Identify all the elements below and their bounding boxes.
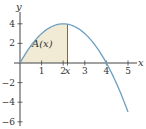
- x-tick-label: 1: [39, 66, 45, 76]
- x-tick-label: 5: [125, 66, 131, 76]
- y-axis-label: y: [15, 1, 22, 12]
- x-axis-label: x: [138, 57, 144, 68]
- y-tick-label: 4: [9, 19, 15, 29]
- y-tick-label: −4: [2, 97, 16, 107]
- area-under-curve-chart: 12x345 42−2−4−6 x y A(x): [0, 0, 146, 129]
- y-tick-label: −6: [2, 117, 16, 127]
- x-tick-label: 3: [82, 66, 88, 76]
- y-tick-label: 2: [9, 38, 15, 48]
- x-tick-label: x: [65, 65, 71, 76]
- y-tick-label: −2: [2, 78, 15, 88]
- y-ticks: 42−2−4−6: [2, 19, 23, 127]
- area-label: A(x): [31, 38, 53, 49]
